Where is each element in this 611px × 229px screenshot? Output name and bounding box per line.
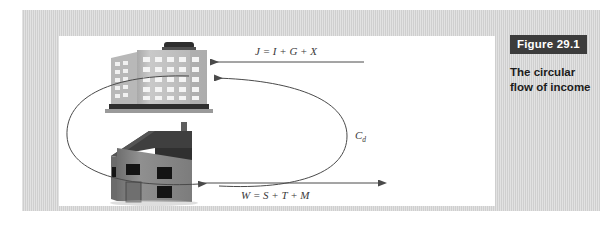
caption-line-1: The circular bbox=[510, 65, 598, 80]
figure-caption-block: Figure 29.1 The circular flow of income bbox=[510, 34, 610, 95]
injections-label: J = I + G + X bbox=[255, 45, 318, 57]
circular-flow-diagram: J = I + G + X Cd W = S + T + M bbox=[59, 36, 495, 206]
figure-caption-text: The circular flow of income bbox=[510, 65, 598, 95]
caption-line-2: flow of income bbox=[510, 80, 598, 95]
consumption-curve-arrow bbox=[215, 78, 347, 187]
figure-container: J = I + G + X Cd W = S + T + M Figure 29… bbox=[0, 0, 611, 229]
figure-plate: J = I + G + X Cd W = S + T + M Figure 29… bbox=[22, 10, 600, 211]
figure-number-badge: Figure 29.1 bbox=[510, 35, 587, 54]
consumption-label: Cd bbox=[355, 129, 366, 144]
office-building-icon bbox=[105, 42, 213, 113]
house-icon bbox=[110, 122, 198, 206]
withdrawals-label: W = S + T + M bbox=[241, 189, 310, 201]
